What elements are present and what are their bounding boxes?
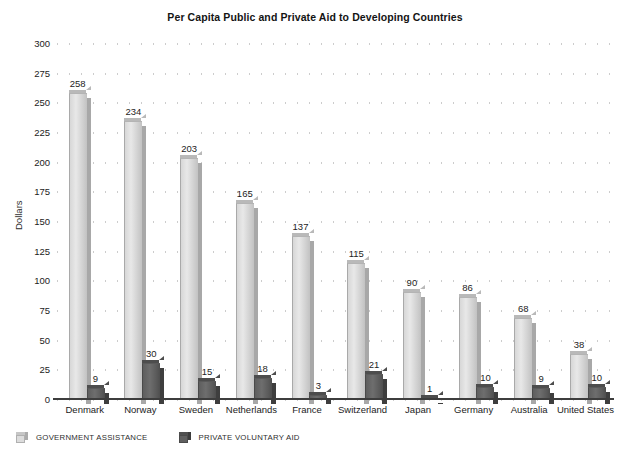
x-axis-tick-label: United States xyxy=(557,404,614,415)
legend-swatch-icon-government-assistance xyxy=(16,432,27,443)
chart-title: Per Capita Public and Private Aid to Dev… xyxy=(0,11,630,23)
bar-group: 16518 xyxy=(224,44,280,400)
x-axis-tick-label: Switzerland xyxy=(335,404,391,415)
bar-value-label: 18 xyxy=(248,363,278,374)
legend-label-private-voluntary-aid: PRIVATE VOLUNTARY AID xyxy=(199,433,300,442)
bar-value-label: 10 xyxy=(470,372,500,383)
x-axis-tick-label: Denmark xyxy=(57,404,113,415)
bar-group: 20315 xyxy=(168,44,224,400)
bar-group: 11521 xyxy=(336,44,392,400)
bar-value-label: 115 xyxy=(341,248,371,259)
y-axis-title: Dollars xyxy=(13,200,24,230)
legend-item-government-assistance: GOVERNMENT ASSISTANCE xyxy=(16,432,148,443)
bar[interactable]: 115 xyxy=(347,264,364,400)
bar[interactable]: 18 xyxy=(254,379,271,400)
bar-value-label: 9 xyxy=(81,373,111,384)
y-axis-tick-label: 200 xyxy=(34,157,57,168)
bar[interactable]: 203 xyxy=(180,159,197,400)
bar-value-label: 203 xyxy=(174,143,204,154)
chart-container: Per Capita Public and Private Aid to Dev… xyxy=(0,0,630,454)
y-axis-tick-label: 275 xyxy=(34,68,57,79)
bar-group: 689 xyxy=(503,44,559,400)
bar[interactable]: 68 xyxy=(514,319,531,400)
x-axis-tick-label: Norway xyxy=(113,404,169,415)
bar[interactable]: 15 xyxy=(198,382,215,400)
y-axis-tick-label: 25 xyxy=(39,364,57,375)
bar-groups: 2589234302031516518137311521901861068938… xyxy=(57,44,614,400)
y-axis-tick-label: 50 xyxy=(39,335,57,346)
bar-value-label: 15 xyxy=(192,366,222,377)
x-axis-tick-label: Netherlands xyxy=(224,404,280,415)
bar-value-label: 10 xyxy=(582,372,612,383)
y-axis-tick-label: 300 xyxy=(34,38,57,49)
bar-value-label: 165 xyxy=(230,188,260,199)
bar-value-label: 137 xyxy=(286,221,316,232)
bar[interactable]: 21 xyxy=(365,375,382,400)
bar[interactable]: 86 xyxy=(459,298,476,400)
plot-area: 3002752502252001751501251007550250 25892… xyxy=(57,44,614,400)
x-axis-tick-label: Sweden xyxy=(168,404,224,415)
bar-group: 2589 xyxy=(57,44,113,400)
y-axis-tick-label: 225 xyxy=(34,127,57,138)
bar-group: 3810 xyxy=(558,44,614,400)
y-axis-tick-label: 100 xyxy=(34,275,57,286)
y-axis-tick-label: 250 xyxy=(34,97,57,108)
bar-value-label: 234 xyxy=(118,106,148,117)
bar-value-label: 68 xyxy=(508,303,538,314)
x-axis-tick-label: Germany xyxy=(446,404,502,415)
x-axis-labels: DenmarkNorwaySwedenNetherlandsFranceSwit… xyxy=(57,404,614,415)
bar-group: 23430 xyxy=(113,44,169,400)
x-axis-line xyxy=(53,398,614,400)
legend-swatch-icon-private-voluntary-aid xyxy=(179,432,190,443)
x-axis-tick-label: France xyxy=(279,404,335,415)
bar-value-label: 90 xyxy=(397,277,427,288)
bar-value-label: 1 xyxy=(415,383,445,394)
y-axis-tick-label: 75 xyxy=(39,305,57,316)
y-axis-tick-label: 150 xyxy=(34,216,57,227)
bar-value-label: 30 xyxy=(136,348,166,359)
bar-value-label: 3 xyxy=(303,380,333,391)
bar-group: 8610 xyxy=(447,44,503,400)
bar-value-label: 86 xyxy=(453,282,483,293)
legend-item-private-voluntary-aid: PRIVATE VOLUNTARY AID xyxy=(179,432,300,443)
y-axis-tick-label: 175 xyxy=(34,186,57,197)
bar-group: 901 xyxy=(391,44,447,400)
x-axis-tick-label: Australia xyxy=(501,404,557,415)
bar[interactable]: 258 xyxy=(69,94,86,400)
bar-value-label: 21 xyxy=(359,359,389,370)
bar-group: 1373 xyxy=(280,44,336,400)
bar[interactable]: 30 xyxy=(142,364,159,400)
chart-legend: GOVERNMENT ASSISTANCE PRIVATE VOLUNTARY … xyxy=(16,432,322,443)
bar-value-label: 258 xyxy=(63,78,93,89)
bar-value-label: 9 xyxy=(526,373,556,384)
bar[interactable]: 137 xyxy=(292,237,309,400)
y-axis-tick-label: 125 xyxy=(34,246,57,257)
x-axis-tick-label: Japan xyxy=(390,404,446,415)
legend-label-government-assistance: GOVERNMENT ASSISTANCE xyxy=(36,433,148,442)
bar-value-label: 38 xyxy=(564,339,594,350)
